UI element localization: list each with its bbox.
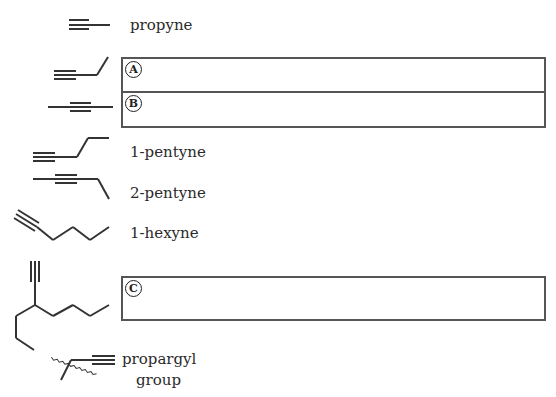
marker-b: B <box>125 95 142 112</box>
answer-field-c[interactable]: C <box>121 276 546 321</box>
label-propyne: propyne <box>130 18 192 33</box>
label-1-hexyne: 1-hexyne <box>130 226 199 241</box>
label-propargyl-group: group <box>136 373 181 388</box>
label-propargyl: propargyl <box>122 352 196 367</box>
butyne-2-structure <box>48 103 113 111</box>
marker-a: A <box>125 61 142 78</box>
butyne-1-structure <box>54 57 108 79</box>
pentyne-1-structure <box>33 138 109 161</box>
propyne-structure <box>69 20 110 29</box>
pentyne-2-structure <box>33 175 109 199</box>
label-2-pentyne: 2-pentyne <box>130 186 206 201</box>
answer-box-ab: A B <box>121 57 546 128</box>
branched-alkyne-structure <box>16 261 109 350</box>
marker-c: C <box>125 280 142 297</box>
label-1-pentyne: 1-pentyne <box>130 145 206 160</box>
propargyl-structure <box>51 356 115 380</box>
answer-field-a[interactable]: A <box>123 59 544 93</box>
answer-field-b[interactable]: B <box>123 93 544 126</box>
hexyne-1-structure <box>14 210 109 240</box>
